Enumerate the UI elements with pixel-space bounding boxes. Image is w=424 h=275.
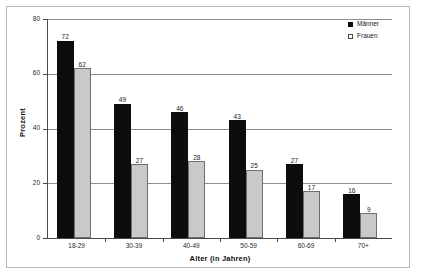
bar-group: 4325 — [220, 19, 277, 238]
plot-area: 72624927462843252717169 — [48, 19, 392, 238]
bar-frauen-18-29[interactable]: 62 — [74, 68, 91, 238]
y-axis-tick-label: 60 — [14, 70, 40, 77]
y-axis-tick-label: 0 — [14, 235, 40, 242]
x-axis-tick-mark — [163, 238, 164, 242]
bar-value-label: 9 — [367, 207, 371, 214]
bar-frauen-40-49[interactable]: 28 — [188, 161, 205, 238]
legend-item-label: Männer — [357, 21, 379, 28]
bar-group: 2717 — [277, 19, 334, 238]
bar-group: 4927 — [105, 19, 162, 238]
bar-value-label: 27 — [136, 158, 143, 165]
x-axis-tick-mark — [105, 238, 106, 242]
x-axis-title: Alter (in Jahren) — [48, 254, 392, 263]
bar-frauen-60-69[interactable]: 17 — [303, 191, 320, 238]
bar-value-label: 16 — [348, 188, 355, 195]
bar-group: 7262 — [48, 19, 105, 238]
bar-maenner-60-69[interactable]: 27 — [286, 164, 303, 238]
bar-value-label: 28 — [193, 155, 200, 162]
bar-maenner-70+[interactable]: 16 — [343, 194, 360, 238]
bar-maenner-40-49[interactable]: 46 — [171, 112, 188, 238]
bar-frauen-70+[interactable]: 9 — [360, 213, 377, 238]
x-axis-category-label: 50-59 — [220, 243, 277, 250]
legend-item[interactable]: Männer — [348, 20, 404, 29]
bar-group: 4628 — [163, 19, 220, 238]
bar-value-label: 72 — [62, 34, 69, 41]
bar-group: 169 — [335, 19, 392, 238]
bar-value-label: 25 — [251, 163, 258, 170]
bar-frauen-50-59[interactable]: 25 — [246, 170, 263, 238]
legend-item-label: Frauen — [357, 33, 378, 40]
legend-item[interactable]: Frauen — [348, 32, 404, 41]
y-axis-tick-mark — [43, 19, 47, 20]
bar-value-label: 62 — [79, 62, 86, 69]
x-axis-tick-mark — [277, 238, 278, 242]
y-axis-tick-label: 20 — [14, 180, 40, 187]
y-axis-tick-label: 80 — [14, 16, 40, 23]
x-axis-category-label: 30-39 — [105, 243, 162, 250]
x-axis-category-label: 18-29 — [48, 243, 105, 250]
x-axis-category-label: 60-69 — [277, 243, 334, 250]
bar-value-label: 43 — [234, 114, 241, 121]
x-axis-category-label: 70+ — [335, 243, 392, 250]
bar-frauen-30-39[interactable]: 27 — [131, 164, 148, 238]
x-axis-category-label: 40-49 — [163, 243, 220, 250]
bar-maenner-30-39[interactable]: 49 — [114, 104, 131, 238]
bar-value-label: 46 — [176, 106, 183, 113]
y-axis-tick-label: 40 — [14, 125, 40, 132]
x-axis-tick-mark — [335, 238, 336, 242]
x-axis-tick-mark — [220, 238, 221, 242]
open-square-icon — [348, 34, 353, 39]
bar-maenner-18-29[interactable]: 72 — [57, 41, 74, 238]
y-axis-tick-mark — [43, 183, 47, 184]
y-axis-tick-mark — [43, 74, 47, 75]
y-axis-tick-mark — [43, 238, 47, 239]
chart-legend: MännerFrauen — [348, 20, 404, 44]
bar-maenner-50-59[interactable]: 43 — [229, 120, 246, 238]
bar-value-label: 17 — [308, 185, 315, 192]
filled-square-icon — [348, 22, 353, 27]
y-axis-tick-mark — [43, 129, 47, 130]
bar-chart: Prozent 020406080 7262492746284325271716… — [0, 0, 424, 275]
y-axis-title: Prozent — [18, 93, 27, 153]
bar-value-label: 27 — [291, 158, 298, 165]
bar-value-label: 49 — [119, 97, 126, 104]
